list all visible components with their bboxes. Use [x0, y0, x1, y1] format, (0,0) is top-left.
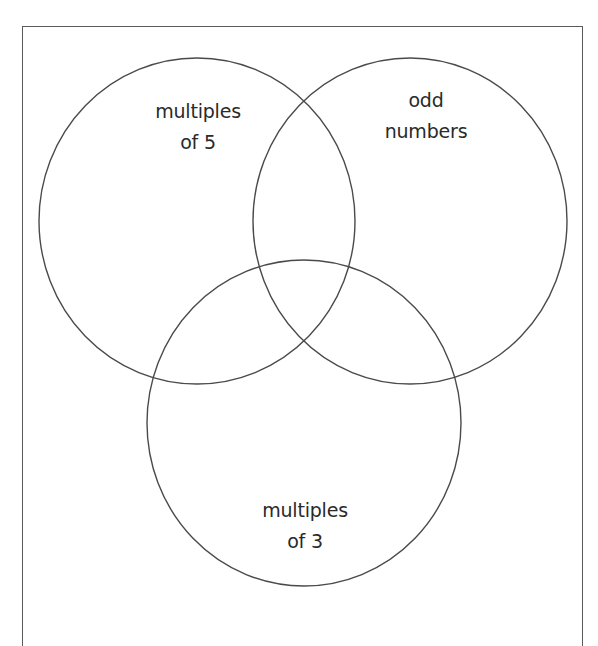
label-multiples-of-3-line1: multiples [262, 495, 348, 526]
label-multiples-of-5: multiples of 5 [155, 96, 241, 158]
label-multiples-of-3-line2: of 3 [262, 526, 348, 557]
label-multiples-of-5-line1: multiples [155, 96, 241, 127]
label-multiples-of-5-line2: of 5 [155, 127, 241, 158]
label-odd-numbers-line2: numbers [385, 116, 468, 147]
label-odd-numbers: odd numbers [385, 85, 468, 147]
label-multiples-of-3: multiples of 3 [262, 495, 348, 557]
label-odd-numbers-line1: odd [385, 85, 468, 116]
